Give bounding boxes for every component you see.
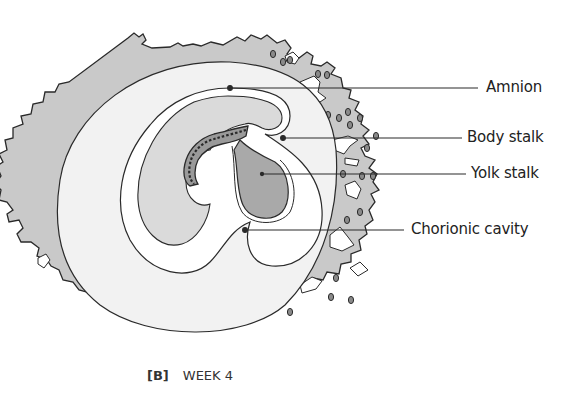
panel-letter: [B]: [147, 368, 169, 383]
label-chorionic-cavity: Chorionic cavity: [411, 220, 528, 238]
week4-embryo-diagram: [0, 0, 583, 394]
label-body-stalk: Body stalk: [467, 128, 543, 146]
figure-caption: [B]WEEK 4: [147, 368, 233, 383]
caption-text: WEEK 4: [183, 368, 233, 383]
label-amnion: Amnion: [486, 78, 542, 96]
label-yolk-stalk: Yolk stalk: [471, 164, 539, 182]
